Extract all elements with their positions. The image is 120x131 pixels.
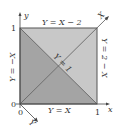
label-bottom-edge: Y = X (48, 106, 71, 115)
tick-y-1: 1 (11, 24, 16, 33)
Y-axis-label: Y (27, 118, 38, 129)
x-axis-label: x (108, 105, 113, 114)
label-left-edge: Y = −X (8, 52, 17, 82)
tick-x-1: 1 (95, 108, 100, 117)
tick-x-0: 0 (18, 108, 23, 117)
tick-y-0: 0 (11, 100, 16, 109)
label-top-edge: Y = X − 2 (42, 18, 82, 27)
diagram-canvas: y x X Y 1 0 0 1 Y = X − 2 Y = X Y = −X Y… (0, 0, 120, 131)
y-axis-label: y (23, 11, 29, 20)
y-axis-arrow-icon (19, 12, 22, 16)
label-right-edge: Y = 2 − X (100, 38, 109, 78)
